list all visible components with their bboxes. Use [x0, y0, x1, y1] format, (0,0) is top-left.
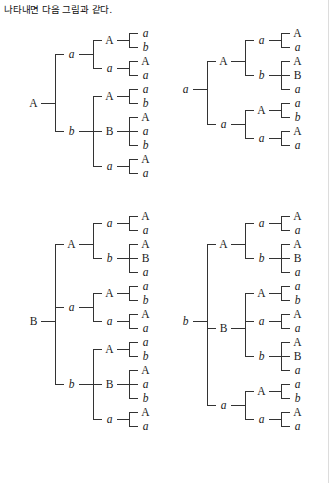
branch-elbow — [93, 216, 102, 230]
branch-group: AaAabABaBAabaAabABaaAabaAa — [207, 209, 305, 433]
tree-leaf: a — [138, 82, 153, 96]
node-label: A — [216, 237, 231, 251]
branch-child: b — [129, 349, 153, 363]
branch-child: a — [129, 26, 153, 40]
branch-child: aAa — [245, 307, 305, 335]
branch-child: bABa — [93, 237, 153, 279]
node-label: b — [178, 314, 193, 328]
node-label: A — [290, 26, 305, 40]
branch-child: A — [281, 26, 305, 40]
branch-elbow — [55, 47, 64, 61]
tree-leaf: a — [290, 279, 305, 293]
branch-lead-line — [117, 293, 129, 294]
branch-child: aAabaAa — [55, 279, 153, 335]
tree-leaf: A — [138, 307, 153, 321]
branch-lead-line — [79, 307, 93, 308]
node-label: a — [138, 124, 153, 138]
tree-node: aAabaAa — [64, 279, 153, 335]
branch-lead-line — [269, 40, 281, 41]
branch-child: AaAabABa — [207, 209, 305, 279]
node-label: a — [138, 68, 153, 82]
tree-leaf: B — [138, 251, 153, 265]
branch-group: ABa — [129, 237, 153, 279]
branch-child: A — [281, 237, 305, 251]
branch-child: a — [281, 419, 305, 433]
branch-elbow — [281, 110, 290, 124]
node-label: A — [138, 110, 153, 124]
branch-group: Aa — [281, 405, 305, 433]
branch-elbow — [93, 342, 102, 356]
branch-child: Aab — [93, 82, 153, 110]
branch-elbow — [129, 335, 138, 349]
node-label: b — [138, 96, 153, 110]
branch-spine — [281, 412, 282, 426]
tree-bottom-left: BAaAabABaaAabaAabAabBAabaAa — [26, 209, 153, 433]
branch-child: Aab — [93, 26, 153, 54]
branch-group: ABa — [281, 54, 305, 96]
branch-elbow — [129, 26, 138, 40]
branch-lead-line — [79, 54, 93, 55]
branch-group: ABa — [281, 237, 305, 279]
node-label: b — [138, 40, 153, 54]
node-label: a — [102, 159, 117, 173]
node-label: a — [102, 216, 117, 230]
branch-lead-line — [79, 244, 93, 245]
tree-node: aAa — [102, 209, 153, 237]
branch-elbow — [281, 279, 290, 293]
tree-node: aAa — [102, 405, 153, 433]
branch-child: aAa — [245, 26, 305, 54]
branch-group: Aa — [281, 26, 305, 54]
branch-group: ab — [129, 279, 153, 307]
branch-spine — [129, 89, 130, 103]
branch-spine — [281, 244, 282, 272]
branch-elbow — [93, 124, 102, 138]
node-label: b — [254, 251, 269, 265]
branch-elbow — [129, 377, 138, 391]
branch-child: aAa — [245, 405, 305, 433]
branch-child: a — [281, 40, 305, 54]
branch-lead-line — [269, 321, 281, 322]
tree-leaf: A — [290, 307, 305, 321]
node-label: a — [254, 33, 269, 47]
branch-elbow — [281, 54, 290, 68]
branch-elbow — [281, 138, 290, 152]
branch-child: B — [281, 349, 305, 363]
branch-child: b — [281, 110, 305, 124]
branch-child: b — [129, 96, 153, 110]
tree-leaf: A — [290, 26, 305, 40]
node-label: a — [64, 300, 79, 314]
tree-leaf: a — [290, 265, 305, 279]
branch-child: AaAabABa — [207, 26, 305, 96]
tree-leaf: a — [138, 279, 153, 293]
branch-lead-line — [269, 391, 281, 392]
branch-spine — [93, 96, 94, 166]
node-label: A — [138, 209, 153, 223]
branch-group: AabaAa — [245, 377, 305, 433]
branch-group: AaAabABaaAabaAa — [207, 26, 305, 152]
branch-elbow — [281, 349, 290, 363]
node-label: b — [138, 391, 153, 405]
branch-elbow — [245, 384, 254, 398]
branch-group: AabaAabABa — [245, 279, 305, 377]
node-label: a — [138, 321, 153, 335]
branch-elbow — [55, 300, 64, 314]
branch-group: aAabABa — [93, 209, 153, 279]
branch-lead-line — [269, 419, 281, 420]
node-label: B — [102, 124, 117, 138]
tree-node: bABa — [102, 237, 153, 279]
branch-spine — [129, 117, 130, 145]
tree-leaf: a — [290, 40, 305, 54]
branch-elbow — [281, 68, 290, 82]
tree-leaf: a — [138, 419, 153, 433]
node-label: a — [290, 223, 305, 237]
node-label: a — [138, 377, 153, 391]
branch-group: AabaAa — [93, 279, 153, 335]
node-label: A — [138, 237, 153, 251]
branch-elbow — [281, 335, 290, 349]
branch-child: A — [129, 405, 153, 419]
tree-top-left: AaAabaAabAabBAabaAa — [26, 26, 153, 180]
branch-elbow — [281, 40, 290, 54]
branch-elbow — [129, 124, 138, 138]
node-label: A — [216, 54, 231, 68]
branch-group: ABa — [281, 335, 305, 377]
